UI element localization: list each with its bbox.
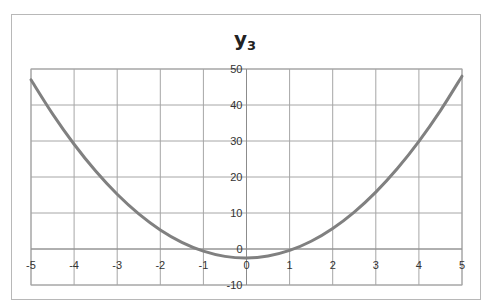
y-tick-label: 30: [230, 135, 242, 147]
y-tick-label: 20: [230, 171, 242, 183]
plot-area: -1001020304050-5-4-3-2-1012345: [0, 0, 490, 307]
y-tick-label: 40: [230, 99, 242, 111]
x-tick-label: 0: [243, 259, 249, 271]
x-tick-label: -2: [155, 259, 165, 271]
x-tick-label: 1: [287, 259, 293, 271]
x-tick-label: 2: [330, 259, 336, 271]
x-tick-label: 3: [373, 259, 379, 271]
x-tick-label: -1: [199, 259, 209, 271]
x-tick-label: 5: [459, 259, 465, 271]
y-tick-label: -10: [227, 279, 243, 291]
y-tick-label: 50: [230, 63, 242, 75]
y-tick-label: 10: [230, 207, 242, 219]
x-tick-label: -5: [26, 259, 36, 271]
x-tick-label: -3: [112, 259, 122, 271]
x-tick-label: 4: [416, 259, 422, 271]
y-tick-label: 0: [236, 243, 242, 255]
x-tick-label: -4: [69, 259, 79, 271]
